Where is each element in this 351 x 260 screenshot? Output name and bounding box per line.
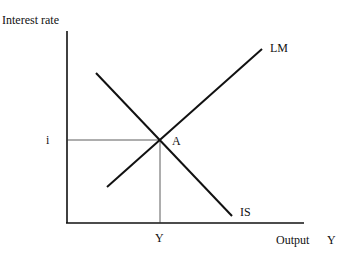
diagram-canvas (0, 0, 351, 260)
x-axis-symbol: Y (327, 234, 336, 246)
y-axis-label: Interest rate (2, 14, 59, 26)
x-axis-label: Output (276, 234, 309, 246)
rate-label: i (46, 134, 49, 146)
output-label: Y (155, 232, 164, 244)
equilibrium-point-label: A (172, 135, 181, 147)
is-label: IS (240, 206, 251, 218)
lm-label: LM (270, 42, 288, 54)
islm-diagram: Interest rate LM i A IS Y Output Y (0, 0, 351, 260)
